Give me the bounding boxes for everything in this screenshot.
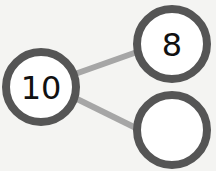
part-circle-bottom[interactable] [137,95,207,165]
number-bond-diagram: 10 8 [0,0,216,171]
part-top-value: 8 [162,26,182,64]
connector-line-top [75,52,137,74]
whole-circle: 10 [6,52,76,122]
part-circle-top: 8 [137,9,207,79]
whole-value: 10 [21,69,62,107]
connector-line-bottom [75,98,140,130]
